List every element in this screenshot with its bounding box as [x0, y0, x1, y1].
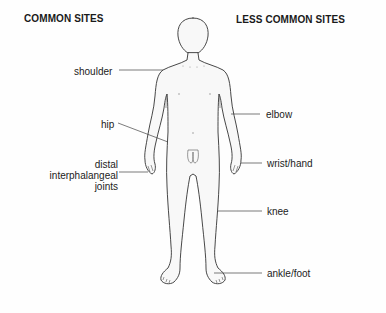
- label-hip: hip: [101, 119, 114, 130]
- label-distal-interphalangeal-joints: distal interphalangeal joints: [50, 159, 118, 192]
- body-outline: [145, 53, 242, 284]
- label-line-interphalangeal: interphalangeal: [50, 170, 118, 181]
- leader-hip: [118, 123, 168, 142]
- label-wrist-hand: wrist/hand: [267, 158, 313, 169]
- head-outline: [178, 18, 208, 55]
- human-body-figure: [0, 0, 386, 313]
- label-shoulder: shoulder: [74, 66, 112, 77]
- less-common-sites-heading: LESS COMMON SITES: [236, 14, 345, 25]
- label-ankle-foot: ankle/foot: [267, 268, 310, 279]
- navel: [192, 132, 193, 133]
- label-elbow: elbow: [266, 109, 292, 120]
- common-sites-heading: COMMON SITES: [24, 13, 104, 24]
- right-nipple: [209, 93, 210, 94]
- joint-sites-diagram: COMMON SITES LESS COMMON SITES shoulder …: [0, 0, 386, 313]
- label-line-joints: joints: [50, 181, 118, 192]
- label-knee: knee: [267, 206, 289, 217]
- label-line-distal: distal: [50, 159, 118, 170]
- left-nipple: [178, 93, 179, 94]
